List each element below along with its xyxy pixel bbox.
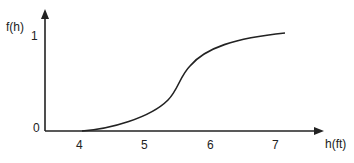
- cdf-curve: [82, 33, 285, 131]
- x-axis-arrow-icon: [314, 127, 324, 135]
- y-axis-label: f(h): [6, 21, 24, 33]
- x-tick-5: 5: [141, 139, 148, 151]
- y-tick-1: 1: [31, 30, 38, 42]
- x-axis-label: h(ft): [325, 138, 346, 150]
- x-tick-4: 4: [76, 139, 83, 151]
- y-tick-0: 0: [33, 122, 40, 134]
- y-axis-arrow-icon: [41, 9, 49, 19]
- x-tick-7: 7: [272, 139, 279, 151]
- x-tick-6: 6: [207, 139, 214, 151]
- chart-plot: [0, 0, 354, 163]
